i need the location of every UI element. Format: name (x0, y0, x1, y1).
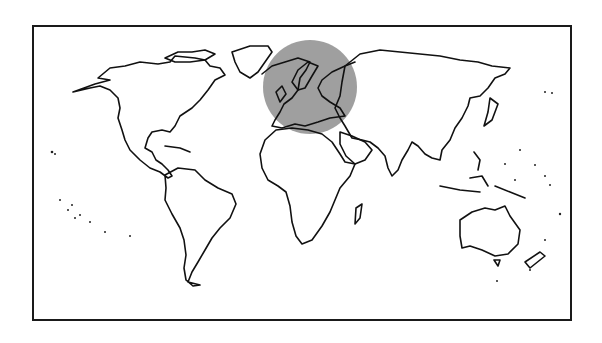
world-map (0, 0, 602, 343)
north-america-outline (73, 56, 225, 178)
europe-highlight-circle (263, 40, 357, 134)
australia-outline (460, 206, 520, 256)
asia-outline (335, 50, 510, 176)
japan-outline (484, 98, 498, 126)
arctic-islands-outline (165, 50, 215, 62)
south-america-outline (165, 168, 236, 286)
cuba-outline (165, 146, 190, 152)
new-zealand-outline (525, 252, 545, 268)
indonesia-outline (440, 176, 525, 198)
philippines-outline (474, 152, 480, 170)
madagascar-outline (355, 204, 362, 224)
tasmania-outline (494, 260, 500, 266)
arabia-outline (340, 132, 372, 164)
